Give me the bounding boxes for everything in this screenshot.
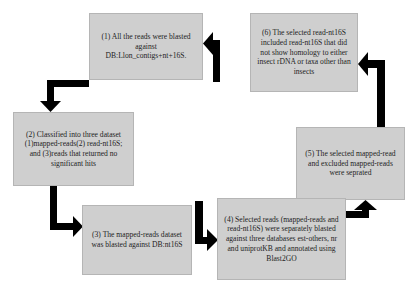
step-5-box: (5) The selected mapped-read and exclude… — [296, 127, 405, 200]
step-2-box: (2) Classified into three dataset (1)map… — [13, 112, 134, 186]
step-2-text: (2) Classified into three dataset (1)map… — [19, 130, 128, 169]
step-1-text: (1) All the reads were blasted against D… — [95, 32, 197, 61]
arrow-2-to-3 — [50, 186, 83, 237]
arrow-6-to-1 — [203, 32, 220, 82]
arrow-5-to-6 — [358, 52, 385, 127]
arrow-1-to-2 — [40, 80, 89, 112]
step-5-text: (5) The selected mapped-read and exclude… — [302, 149, 399, 178]
arrow-3-to-4 — [195, 201, 218, 251]
step-3-text: (3) The mapped-reads dataset was blasted… — [88, 230, 186, 249]
step-6-text: (6) The selected read-nt16S included rea… — [256, 28, 352, 77]
step-1-box: (1) All the reads were blasted against D… — [89, 13, 203, 80]
step-4-box: (4) Selected reads (mapped-reads and rea… — [217, 198, 346, 280]
step-6-box: (6) The selected read-nt16S included rea… — [250, 13, 358, 92]
step-3-box: (3) The mapped-reads dataset was blasted… — [82, 205, 192, 275]
arrow-4-to-5 — [346, 200, 377, 218]
step-4-text: (4) Selected reads (mapped-reads and rea… — [223, 215, 340, 264]
